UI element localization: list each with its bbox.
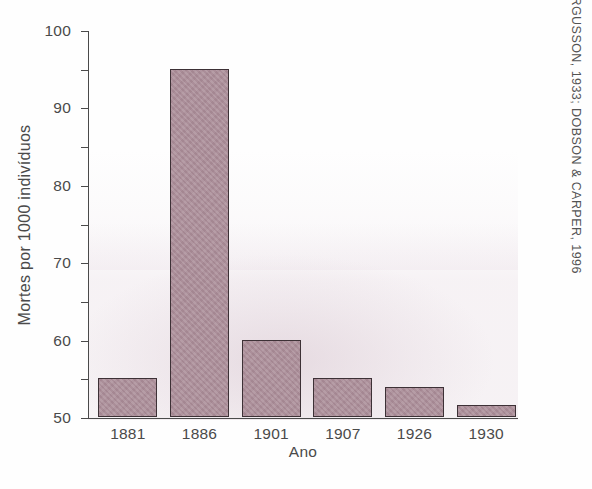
x-axis-line xyxy=(88,418,518,419)
y-axis-tick: 20 xyxy=(81,341,88,342)
bar-1886 xyxy=(170,69,229,417)
y-axis-tick-label: 70 xyxy=(53,254,71,272)
y-axis-tick: 0 xyxy=(81,418,88,419)
bar-1881 xyxy=(98,378,157,417)
x-axis-tick-label: 1930 xyxy=(469,425,504,443)
figure-bar-chart: Mortes por 1000 indivíduos 0102030405060… xyxy=(0,0,592,489)
x-axis-tick-label: 1886 xyxy=(182,425,217,443)
y-axis-line xyxy=(88,31,89,419)
y-axis-tick: 90 xyxy=(81,70,88,71)
bar-1926 xyxy=(385,387,444,417)
source-credit-label: ADAPTADA DE FERGUSSON, 1933; DOBSON & CA… xyxy=(569,0,583,274)
y-axis-tick: 60 xyxy=(81,186,88,187)
source-credit: ADAPTADA DE FERGUSSON, 1933; DOBSON & CA… xyxy=(566,72,586,472)
y-axis-tick: 70 xyxy=(81,147,88,148)
y-axis-tick: 10 xyxy=(81,379,88,380)
y-axis-tick-label: 60 xyxy=(53,332,71,350)
y-axis-title-label: Mortes por 1000 indivíduos xyxy=(16,124,34,325)
bar-1907 xyxy=(313,378,372,417)
y-axis-tick: 50 xyxy=(81,225,88,226)
bar-1901 xyxy=(242,340,301,417)
x-axis-tick-label: 1901 xyxy=(254,425,289,443)
y-axis-tick: 30 xyxy=(81,302,88,303)
y-axis-tick: 80 xyxy=(81,108,88,109)
x-axis-tick-label: 1907 xyxy=(325,425,360,443)
y-axis-tick: 100 xyxy=(81,31,88,32)
x-axis-tick-label: 1926 xyxy=(397,425,432,443)
y-axis-tick: 40 xyxy=(81,263,88,264)
y-axis-tick-label: 100 xyxy=(45,22,71,40)
x-axis-title: Ano xyxy=(88,443,518,461)
y-axis-tick-label: 80 xyxy=(53,177,71,195)
x-axis-tick-label: 1881 xyxy=(110,425,145,443)
y-axis-tick-label: 90 xyxy=(53,99,71,117)
bar-1930 xyxy=(457,405,516,417)
y-axis-title: Mortes por 1000 indivíduos xyxy=(14,31,36,418)
y-axis-tick-label: 50 xyxy=(53,409,71,427)
plot-area: 0102030405060708090100 18811886190119071… xyxy=(88,31,518,418)
